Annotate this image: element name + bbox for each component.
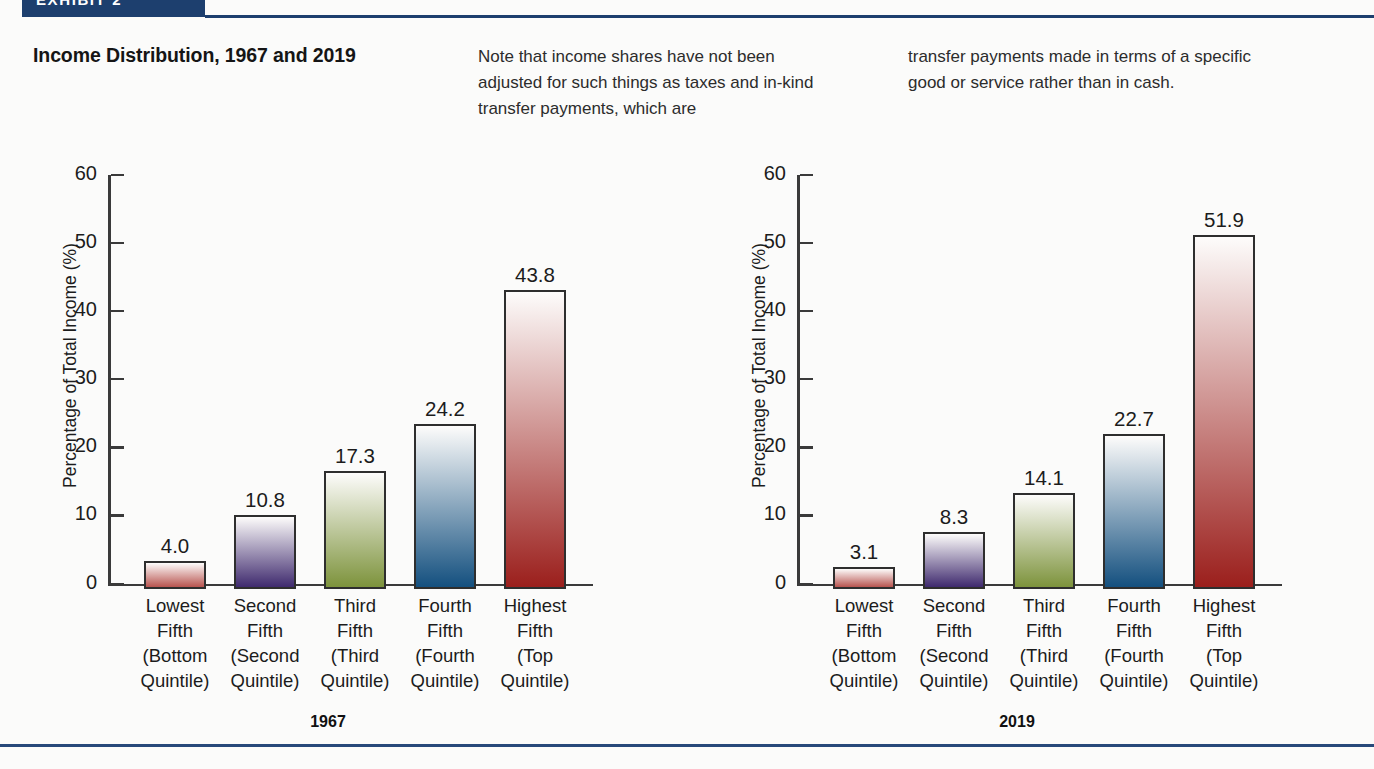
category-label-line: (Third (999, 643, 1089, 668)
exhibit-header-band: EXHIBIT 2 (22, 0, 205, 17)
category-label-line: Quintile) (130, 668, 220, 693)
category-label-line: Lowest (819, 593, 909, 618)
y-tick-mark (800, 174, 813, 176)
category-label-line: (Fourth (1089, 643, 1179, 668)
plot-area-2019: 01020304050603.1LowestFifth(BottomQuinti… (797, 175, 1297, 591)
category-label-line: Highest (490, 593, 580, 618)
category-label-line: Fourth (400, 593, 490, 618)
bar-value-label: 4.0 (161, 534, 190, 558)
bar-value-label: 43.8 (515, 263, 555, 287)
category-label-line: Quintile) (909, 668, 999, 693)
bar: 4.0 (144, 561, 206, 588)
x-axis-category-label: SecondFifth(SecondQuintile) (909, 593, 999, 693)
bar-value-label: 17.3 (335, 444, 375, 468)
y-tick-label: 50 (75, 230, 97, 253)
y-tick-label: 10 (75, 502, 97, 525)
category-label-line: Fifth (909, 618, 999, 643)
category-label-line: Fifth (400, 618, 490, 643)
category-label-line: Fourth (1089, 593, 1179, 618)
category-label-line: Fifth (1089, 618, 1179, 643)
note-column-2: transfer payments made in terms of a spe… (908, 44, 1288, 96)
category-label-line: Second (220, 593, 310, 618)
bar: 8.3 (923, 532, 985, 589)
bar-value-label: 10.8 (245, 488, 285, 512)
category-label-line: (Bottom (130, 643, 220, 668)
plot-area-1967: 01020304050604.0LowestFifth(BottomQuinti… (108, 175, 608, 591)
category-label-line: Fifth (999, 618, 1089, 643)
category-label-line: Fifth (1179, 618, 1269, 643)
category-label-line: (Top (490, 643, 580, 668)
y-tick-mark (800, 583, 813, 585)
category-label-line: (Top (1179, 643, 1269, 668)
bar: 17.3 (324, 471, 386, 589)
chart-panel-2019: Percentage of Total Income (%) 010203040… (697, 150, 1337, 750)
y-tick-label: 40 (764, 298, 786, 321)
y-tick-label: 60 (75, 162, 97, 185)
y-tick-mark (111, 583, 124, 585)
category-label-line: Fifth (310, 618, 400, 643)
bar: 24.2 (414, 424, 476, 589)
category-label-line: Lowest (130, 593, 220, 618)
category-label-line: Quintile) (1089, 668, 1179, 693)
category-label-line: (Second (909, 643, 999, 668)
bar-value-label: 8.3 (940, 505, 969, 529)
category-label-line: Fifth (220, 618, 310, 643)
category-label-line: (Third (310, 643, 400, 668)
y-tick-mark (800, 514, 813, 516)
category-label-line: Quintile) (490, 668, 580, 693)
bar: 3.1 (833, 567, 895, 588)
bar: 51.9 (1193, 235, 1255, 588)
y-axis-line (108, 175, 111, 586)
bar-value-label: 14.1 (1024, 466, 1064, 490)
exhibit-number-label: EXHIBIT 2 (36, 0, 122, 8)
category-label-line: Quintile) (310, 668, 400, 693)
category-label-line: Third (999, 593, 1089, 618)
y-tick-mark (800, 310, 813, 312)
y-tick-label: 20 (75, 434, 97, 457)
y-axis-line (797, 175, 800, 586)
x-axis-category-label: FourthFifth(FourthQuintile) (1089, 593, 1179, 693)
y-tick-mark (111, 446, 124, 448)
y-tick-label: 0 (86, 571, 97, 594)
category-label-line: Quintile) (1179, 668, 1269, 693)
y-tick-mark (800, 446, 813, 448)
category-label-line: (Bottom (819, 643, 909, 668)
category-label-line: Third (310, 593, 400, 618)
bar-value-label: 51.9 (1204, 208, 1244, 232)
y-tick-mark (111, 514, 124, 516)
bar-value-label: 22.7 (1114, 407, 1154, 431)
exhibit-title: Income Distribution, 1967 and 2019 (33, 44, 453, 67)
y-tick-label: 50 (764, 230, 786, 253)
bar: 10.8 (234, 515, 296, 589)
bar: 14.1 (1013, 493, 1075, 589)
note-column-1: Note that income shares have not been ad… (478, 44, 843, 122)
bar-value-label: 24.2 (425, 397, 465, 421)
x-axis-category-label: HighestFifth(TopQuintile) (1179, 593, 1269, 693)
y-tick-label: 40 (75, 298, 97, 321)
category-label-line: Quintile) (220, 668, 310, 693)
bar-value-label: 3.1 (850, 540, 879, 564)
category-label-line: Second (909, 593, 999, 618)
y-tick-mark (800, 242, 813, 244)
category-label-line: Fifth (490, 618, 580, 643)
category-label-line: Fifth (819, 618, 909, 643)
y-tick-label: 20 (764, 434, 786, 457)
category-label-line: (Second (220, 643, 310, 668)
chart-caption-2019: 2019 (697, 713, 1337, 731)
y-tick-label: 0 (775, 571, 786, 594)
y-tick-mark (800, 378, 813, 380)
y-tick-mark (111, 310, 124, 312)
y-tick-label: 30 (75, 366, 97, 389)
y-tick-label: 30 (764, 366, 786, 389)
chart-caption-1967: 1967 (8, 713, 648, 731)
x-axis-category-label: FourthFifth(FourthQuintile) (400, 593, 490, 693)
chart-panel-1967: Percentage of Total Income (%) 010203040… (8, 150, 648, 750)
category-label-line: Quintile) (400, 668, 490, 693)
y-tick-mark (111, 174, 124, 176)
category-label-line: Fifth (130, 618, 220, 643)
y-tick-mark (111, 378, 124, 380)
category-label-line: Quintile) (999, 668, 1089, 693)
x-axis-category-label: LowestFifth(BottomQuintile) (819, 593, 909, 693)
bar: 43.8 (504, 290, 566, 588)
x-axis-category-label: ThirdFifth(ThirdQuintile) (999, 593, 1089, 693)
